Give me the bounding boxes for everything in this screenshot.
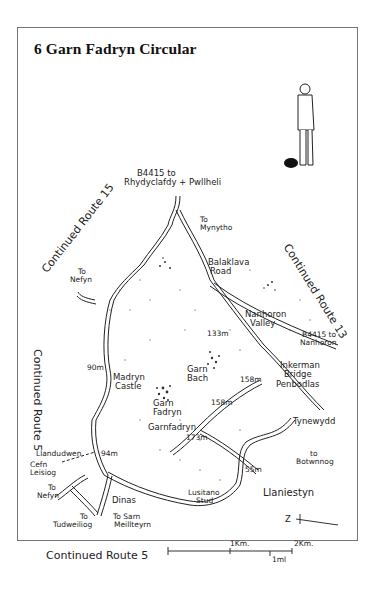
height-55: 55m [245, 466, 262, 474]
sarn-dest: Meillteyrn [114, 521, 151, 529]
nefyn-top-dest: Nefyn [70, 276, 92, 284]
penbodlas: Penbodlas [276, 380, 319, 389]
height-158-a: 158m [240, 376, 262, 384]
nanhoron-dest: Nanhoron [300, 339, 337, 347]
dinas: Dinas [112, 496, 136, 505]
cefn-leisiog-2: Leisiog [30, 469, 56, 477]
llandudwen: Llandudwen [36, 450, 81, 458]
nanhoron-valley-2: Valley [250, 319, 275, 328]
madryn-castle-2: Castle [115, 382, 142, 391]
scale-2km: 2Km. [294, 540, 313, 548]
scale-1mile: 1ml [272, 556, 286, 564]
garn-bach-2: Bach [187, 374, 208, 383]
nefyn-bottom-dest: Nefyn [37, 492, 59, 500]
roads [55, 196, 338, 516]
height-94: 94m [101, 450, 118, 458]
inkerman-bridge-2: Bridge [284, 370, 312, 379]
north-arrow-label: Z [285, 515, 291, 524]
garn-fadryn-2: Fadryn [153, 408, 182, 417]
road-north-dest: Rhydyclafdy + Pwllheli [124, 178, 221, 187]
scale-1km: 1Km. [230, 540, 249, 548]
balaklava-road-2: Road [210, 267, 231, 276]
north-arrow [296, 514, 338, 525]
lusitano-stud-2: Stud [196, 497, 213, 505]
continued-route-5-bottom: Continued Route 5 [46, 550, 148, 562]
height-158-b: 158m [211, 399, 233, 407]
walker-illustration [284, 84, 314, 168]
botwnnog-dest: Botwnnog [296, 458, 334, 466]
tudweiliog-dest: Tudweiliog [53, 521, 92, 529]
continued-route-5-side: Continued Route 5 [31, 349, 43, 451]
height-133: 133m [207, 330, 229, 338]
tynewydd: Tynewydd [293, 417, 335, 426]
height-173: 173m [186, 434, 208, 442]
height-90: 90m [87, 364, 104, 372]
garnfadryn-village: Garnfadryn [148, 423, 196, 432]
llaniestyn: Llaniestyn [263, 488, 314, 497]
mynytho-dest: Mynytho [200, 224, 232, 232]
